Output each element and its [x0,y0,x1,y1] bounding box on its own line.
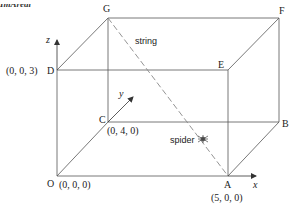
string-line [108,18,228,176]
coord-label-D: (0, 0, 3) [6,66,38,76]
axis-label-x: x [253,180,257,190]
coord-label-C: (0, 4, 0) [107,126,139,136]
coord-label-A: (5, 0, 0) [211,193,243,203]
vertex-label-B: B [282,119,289,129]
edge-AB [228,122,279,176]
axis-label-y: y [119,89,123,99]
vertex-label-G: G [103,4,110,14]
string-label: string [135,37,157,46]
spider-icon [198,135,208,143]
spider-label: spider [170,136,195,145]
axis-label-z: z [46,35,50,45]
vertex-label-A: A [224,180,231,190]
vertex-label-C: C [99,115,106,125]
vertex-label-O: O [47,179,54,189]
coord-label-O: (0, 0, 0) [59,180,91,190]
edge-OC [57,122,108,176]
y-axis-arrow [108,97,133,122]
vertex-label-F: F [279,6,285,16]
vertex-label-E: E [218,60,224,70]
edge-EF [228,18,279,70]
edge-DG [57,18,108,70]
cuboid-svg [0,0,292,206]
vertex-label-D: D [47,66,54,76]
